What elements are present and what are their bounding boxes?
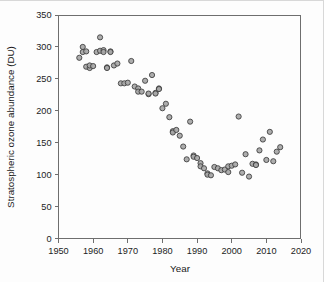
data-point <box>177 133 182 138</box>
data-point <box>146 91 151 96</box>
data-point <box>160 106 165 111</box>
x-tick-label: 2010 <box>256 246 276 256</box>
data-point <box>163 101 168 106</box>
plot-canvas: 050100150200250300350 195019601970198019… <box>0 0 324 282</box>
x-tick-label: 1990 <box>187 246 207 256</box>
data-point <box>181 144 186 149</box>
x-axis-ticks: 19501960197019801990200020102020 <box>48 239 311 256</box>
data-point <box>267 129 272 134</box>
y-tick-label: 50 <box>41 202 51 212</box>
data-point <box>125 80 130 85</box>
ozone-scatter-figure: 050100150200250300350 195019601970198019… <box>0 0 324 282</box>
data-point <box>139 89 144 94</box>
data-point-group <box>77 35 283 179</box>
data-point <box>91 63 96 68</box>
data-point <box>253 162 258 167</box>
data-point <box>246 174 251 179</box>
x-tick-label: 2020 <box>291 246 311 256</box>
data-point <box>243 152 248 157</box>
data-point <box>101 49 106 54</box>
data-point <box>188 119 193 124</box>
data-point <box>240 170 245 175</box>
y-tick-label: 200 <box>36 106 51 116</box>
data-point <box>97 35 102 40</box>
figure-top-border <box>0 0 324 1</box>
data-point <box>84 49 89 54</box>
data-point <box>201 166 206 171</box>
data-point <box>208 173 213 178</box>
x-tick-label: 1970 <box>118 246 138 256</box>
data-point <box>143 78 148 83</box>
data-point <box>278 145 283 150</box>
data-point <box>274 149 279 154</box>
data-point <box>226 169 231 174</box>
data-point <box>236 114 241 119</box>
y-tick-label: 300 <box>36 42 51 52</box>
data-point <box>271 159 276 164</box>
data-point <box>264 157 269 162</box>
data-point <box>108 49 113 54</box>
data-point <box>257 148 262 153</box>
x-tick-label: 1960 <box>83 246 103 256</box>
y-axis-title: Stratospheric ozone abundance (DU) <box>5 46 16 208</box>
data-point <box>260 137 265 142</box>
data-point <box>80 44 85 49</box>
x-tick-label: 2000 <box>221 246 241 256</box>
data-point <box>104 65 109 70</box>
data-point <box>184 157 189 162</box>
data-point <box>115 61 120 66</box>
data-point <box>174 127 179 132</box>
y-tick-label: 0 <box>46 234 51 244</box>
data-point <box>167 115 172 120</box>
x-tick-label: 1980 <box>152 246 172 256</box>
y-tick-label: 150 <box>36 138 51 148</box>
y-tick-label: 250 <box>36 74 51 84</box>
data-point <box>156 86 161 91</box>
y-tick-label: 100 <box>36 170 51 180</box>
figure-caption-fragment <box>0 273 324 282</box>
data-point <box>153 91 158 96</box>
data-point <box>194 155 199 160</box>
data-point <box>149 72 154 77</box>
data-point <box>129 58 134 63</box>
y-tick-label: 350 <box>36 10 51 20</box>
data-point <box>233 162 238 167</box>
plot-frame <box>59 15 302 239</box>
x-tick-label: 1950 <box>48 246 68 256</box>
data-point <box>77 55 82 60</box>
y-axis-ticks: 050100150200250300350 <box>36 10 58 244</box>
